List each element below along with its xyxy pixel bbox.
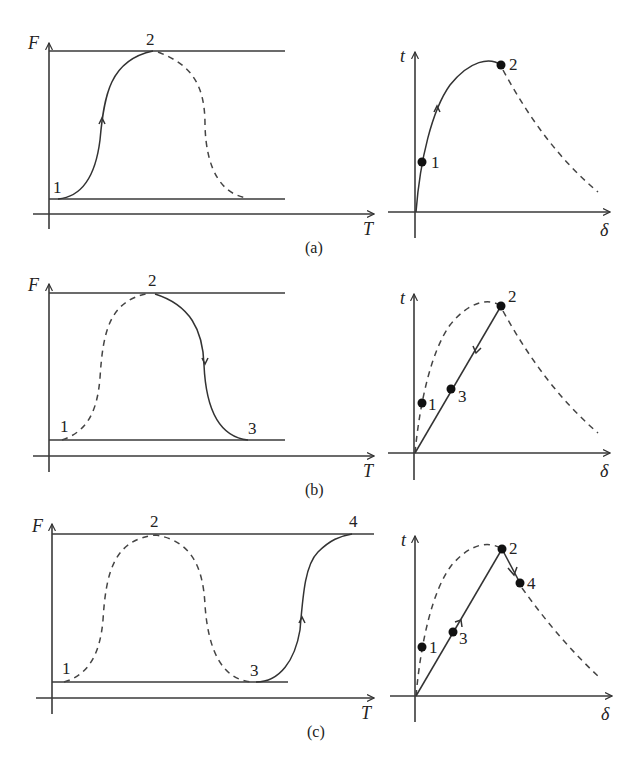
panel-c: F T 1 2 3 4 t δ 1 2 3 4 (c) — [31, 512, 612, 741]
down-arrow-icon — [202, 358, 208, 364]
point-1-label: 1 — [431, 153, 440, 172]
panel-a-right-plot: t δ 1 2 — [388, 46, 610, 240]
point-4-marker — [516, 579, 525, 588]
t-axis-label: t — [400, 46, 406, 66]
point-1-marker — [418, 158, 427, 167]
caption-a: (a) — [305, 239, 323, 257]
point-1-label: 1 — [62, 659, 71, 678]
figure-canvas: F T 1 2 t δ 1 2 (a) — [0, 0, 643, 773]
dashed-curve — [62, 293, 150, 440]
point-2-label: 2 — [509, 539, 518, 558]
panel-c-left-plot: F T 1 2 3 4 — [31, 512, 374, 723]
panel-b-right-plot: t δ 1 2 3 — [388, 287, 610, 481]
caption-b: (b) — [305, 481, 324, 499]
f-axis-label: F — [27, 33, 40, 53]
point-3-label: 3 — [458, 387, 467, 406]
point-3-marker — [447, 385, 456, 394]
unloading-line — [415, 306, 501, 453]
point-4-label: 4 — [527, 574, 536, 593]
point-2-label: 2 — [509, 55, 518, 74]
dashed-softening — [522, 588, 598, 676]
caption-c: (c) — [307, 723, 325, 741]
point-2-marker — [497, 61, 506, 70]
panel-a: F T 1 2 t δ 1 2 (a) — [27, 30, 610, 257]
delta-axis-label: δ — [600, 220, 609, 240]
point-2-label: 2 — [508, 287, 517, 306]
solid-curve-1-2 — [416, 61, 501, 212]
panel-c-right-plot: t δ 1 2 3 4 — [390, 530, 612, 724]
point-1-label: 1 — [60, 417, 69, 436]
solid-curve-2-3 — [155, 294, 248, 440]
point-1-label: 1 — [428, 395, 437, 414]
point-2-marker — [497, 302, 506, 311]
point-3-label: 3 — [459, 629, 468, 648]
dashed-softening — [503, 311, 598, 433]
dashed-curve — [158, 52, 248, 198]
point-1-label: 1 — [53, 178, 62, 197]
f-axis-label: F — [27, 275, 40, 295]
t-axis-label: t — [401, 530, 407, 550]
point-1-label: 1 — [429, 638, 438, 657]
t-axis-label: T — [361, 703, 373, 723]
t-axis-label: T — [363, 219, 375, 239]
panel-a-left-plot: F T 1 2 — [27, 30, 375, 239]
panel-b-left-plot: F T 1 2 3 — [27, 271, 375, 481]
solid-curve-1-2 — [58, 51, 153, 199]
point-1-marker — [418, 643, 427, 652]
dashed-curve — [503, 70, 598, 192]
reloading-line — [416, 549, 502, 696]
panel-b: F T 1 2 3 t δ 1 2 3 (b) — [27, 271, 610, 499]
up-arrow-icon — [299, 617, 305, 623]
t-axis-label: T — [363, 461, 375, 481]
delta-axis-label: δ — [600, 461, 609, 481]
f-axis-label: F — [31, 516, 44, 536]
dashed-curve-1-2-3 — [64, 535, 252, 682]
point-1-marker — [418, 399, 427, 408]
point-3-marker — [449, 628, 458, 637]
point-3-label: 3 — [248, 419, 257, 438]
point-4-label: 4 — [349, 512, 358, 531]
point-2-label: 2 — [146, 30, 155, 49]
point-3-label: 3 — [250, 661, 259, 680]
delta-axis-label: δ — [601, 704, 610, 724]
point-2-label: 2 — [150, 512, 159, 531]
solid-curve-3-4 — [256, 534, 352, 682]
point-2-label: 2 — [148, 271, 157, 290]
t-axis-label: t — [400, 288, 406, 308]
point-2-marker — [498, 545, 507, 554]
